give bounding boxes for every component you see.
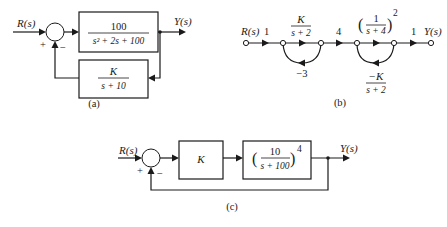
arrow-icon xyxy=(236,155,243,162)
plus-sign-c: + xyxy=(137,165,143,176)
node xyxy=(280,40,285,45)
plus-sign-a: + xyxy=(40,39,46,50)
forward-denominator-a: s² + 2s + 100 xyxy=(93,36,145,46)
caption-a: (a) xyxy=(88,98,100,110)
loop-gain-1: −3 xyxy=(296,68,307,79)
node xyxy=(243,40,248,45)
minus-sign-a: − xyxy=(60,42,66,53)
caption-b: (b) xyxy=(334,97,347,109)
loop-gain-2-denominator: s + 2 xyxy=(366,85,386,95)
branch-gain-4-denominator: s + 4 xyxy=(366,26,386,36)
input-label-b: R(s) xyxy=(240,25,260,38)
arrow-icon xyxy=(148,167,155,174)
plant-numerator: 10 xyxy=(270,146,281,157)
feedback-denominator-a: s + 10 xyxy=(101,81,126,91)
plant-denominator: s + 100 xyxy=(260,161,289,171)
node xyxy=(428,40,433,45)
input-label-a: R(s) xyxy=(16,17,36,30)
branch-gain-3: 4 xyxy=(336,26,342,37)
minus-sign-c: − xyxy=(157,168,163,179)
loop-branch-2 xyxy=(357,43,394,63)
input-label-c: R(s) xyxy=(118,144,138,157)
arrow-icon xyxy=(179,29,186,36)
arrow-icon xyxy=(148,75,155,82)
arrow-icon xyxy=(39,29,46,36)
exponent: 2 xyxy=(393,8,398,18)
arrow-icon xyxy=(336,40,343,47)
branch-gain-5: 1 xyxy=(411,26,416,37)
arrow-icon xyxy=(298,60,305,67)
arrow-icon xyxy=(52,41,59,48)
signal-flow-graph-b: R(s) 1 K s + 2 4 ( 1 s + 4 ) 2 1 Y(s) −3… xyxy=(240,8,442,109)
arrow-icon xyxy=(372,60,379,67)
loop-branch-1 xyxy=(283,43,321,63)
node xyxy=(354,40,359,45)
summing-junction-c xyxy=(142,149,160,167)
open-paren: ( xyxy=(358,16,363,34)
arrow-icon xyxy=(172,155,179,162)
output-label-b: Y(s) xyxy=(424,25,442,38)
arrow-icon xyxy=(343,155,350,162)
caption-c: (c) xyxy=(226,201,238,213)
arrow-icon xyxy=(373,40,380,47)
output-label-c: Y(s) xyxy=(340,142,358,155)
exponent: 4 xyxy=(297,144,302,154)
open-paren: ( xyxy=(252,150,257,168)
block-diagram-c: R(s) + − K ( 10 s + 100 ) 4 Y(s) (c) xyxy=(118,141,358,213)
arrow-icon xyxy=(262,40,269,47)
forward-block-a xyxy=(79,12,158,52)
node xyxy=(318,40,323,45)
close-paren: ) xyxy=(387,16,392,34)
block-diagram-a: R(s) + − 100 s² + 2s + 100 Y(s) K s + 10… xyxy=(13,12,192,110)
diagram-canvas: R(s) + − 100 s² + 2s + 100 Y(s) K s + 10… xyxy=(0,0,447,227)
feedback-numerator-a: K xyxy=(109,65,118,77)
output-label-a: Y(s) xyxy=(174,15,192,28)
feedback-return-a xyxy=(55,46,79,78)
forward-numerator-a: 100 xyxy=(111,21,127,32)
branch-gain-4-numerator: 1 xyxy=(373,13,378,24)
branch-gain-1: 1 xyxy=(264,26,269,37)
summing-junction-a xyxy=(46,23,64,41)
branch-gain-2-numerator: K xyxy=(296,13,305,25)
gain-block-label: K xyxy=(196,153,205,165)
arrow-icon xyxy=(410,40,417,47)
node xyxy=(391,40,396,45)
branch-gain-2-denominator: s + 2 xyxy=(291,28,311,38)
arrow-icon xyxy=(299,40,306,47)
arrow-icon xyxy=(72,29,79,36)
loop-gain-2-numerator: −K xyxy=(369,70,384,82)
close-paren: ) xyxy=(290,150,295,168)
